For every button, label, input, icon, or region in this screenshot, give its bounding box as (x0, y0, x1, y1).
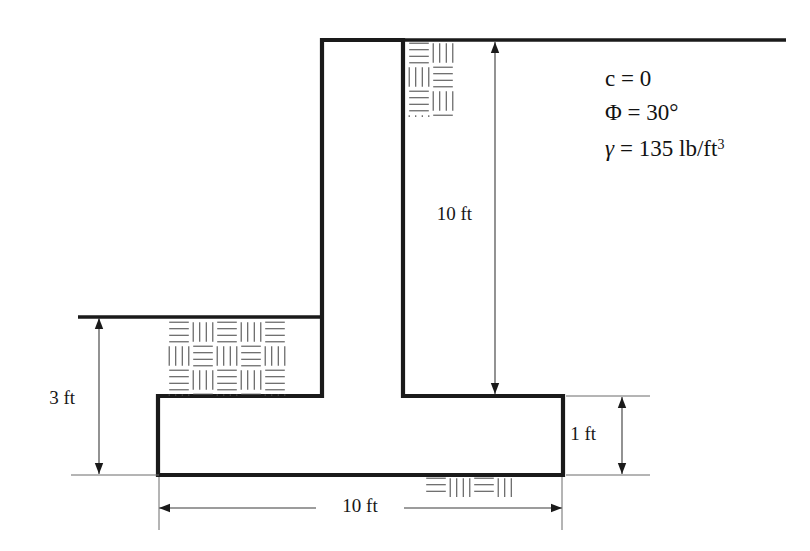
gamma-value: = 135 lb/ft (620, 136, 718, 161)
dimension-label-stem-height: 10 ft (437, 203, 473, 224)
soil-property-annotations: c = 0 Φ = 30° γ= 135 lb/ft3 (605, 66, 724, 161)
dimension-footing-depth: 3 ft (49, 318, 159, 475)
arrowhead-top (618, 397, 626, 408)
soil-cohesion-label: c = 0 (605, 66, 651, 91)
arrowhead-bottom (491, 383, 499, 394)
arrowhead-left (159, 504, 170, 512)
backfill-hatch-left (169, 322, 309, 438)
arrowhead-top (491, 42, 499, 53)
gamma-symbol: γ (605, 136, 615, 161)
gamma-exponent: 3 (717, 137, 724, 152)
arrowhead-bottom (618, 463, 626, 474)
backfill-hatch-top (409, 43, 501, 159)
dimension-label-footing-depth: 3 ft (49, 387, 76, 408)
dimension-label-base-thickness: 1 ft (570, 423, 597, 444)
foundation-hatch-bottom (426, 478, 542, 522)
retaining-wall-profile (158, 40, 563, 475)
soil-hatch-layer (169, 43, 542, 522)
retaining-wall-diagram: 10 ft 3 ft 1 ft 10 ft (0, 0, 810, 551)
wall-outline (158, 40, 563, 475)
arrowhead-bottom (95, 463, 103, 474)
ground-lines (78, 40, 786, 317)
soil-unit-weight-label: γ= 135 lb/ft3 (605, 136, 724, 161)
arrowhead-right (551, 504, 562, 512)
dimension-base-thickness: 1 ft (566, 396, 650, 475)
soil-friction-angle-label: Φ = 30° (605, 100, 678, 125)
arrowhead-top (95, 318, 103, 329)
diagram-canvas: 10 ft 3 ft 1 ft 10 ft (0, 0, 810, 551)
dimension-label-base-width: 10 ft (342, 495, 378, 516)
dimension-base-width: 10 ft (159, 477, 562, 530)
